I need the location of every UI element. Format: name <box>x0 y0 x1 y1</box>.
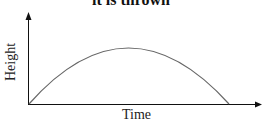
chart-plot <box>0 0 262 123</box>
y-axis-label: Height <box>3 39 19 85</box>
x-axis-arrow-icon <box>255 102 262 108</box>
x-axis-label: Time <box>122 107 151 123</box>
y-axis-arrow-icon <box>26 12 32 20</box>
trajectory-curve <box>29 48 229 104</box>
